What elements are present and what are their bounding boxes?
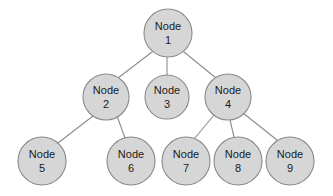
- node-label-number-3: 3: [164, 98, 170, 110]
- tree-node-6[interactable]: Node6: [107, 137, 155, 185]
- node-label-number-9: 9: [287, 162, 293, 174]
- tree-diagram-canvas: Node1Node2Node3Node4Node5Node6Node7Node8…: [0, 0, 333, 196]
- tree-edge-1-to-4: [184, 52, 216, 78]
- tree-edge-4-to-7: [194, 114, 215, 139]
- tree-node-8[interactable]: Node8: [214, 137, 262, 185]
- tree-node-5[interactable]: Node5: [18, 137, 66, 185]
- node-label-prefix-8: Node: [225, 148, 251, 160]
- node-label-number-7: 7: [183, 162, 189, 174]
- tree-node-7[interactable]: Node7: [162, 137, 210, 185]
- tree-edge-1-to-2: [118, 52, 152, 78]
- tree-edge-2-to-5: [58, 116, 93, 143]
- tree-node-3[interactable]: Node3: [145, 75, 189, 119]
- tree-node-1[interactable]: Node1: [144, 9, 192, 57]
- node-label-number-5: 5: [39, 162, 45, 174]
- node-label-prefix-4: Node: [215, 84, 241, 96]
- node-label-prefix-5: Node: [29, 148, 55, 160]
- node-label-prefix-2: Node: [93, 84, 119, 96]
- node-label-prefix-3: Node: [154, 84, 180, 96]
- node-label-prefix-9: Node: [277, 148, 303, 160]
- node-label-number-2: 2: [103, 98, 109, 110]
- tree-node-4[interactable]: Node4: [205, 74, 251, 120]
- tree-node-9[interactable]: Node9: [266, 137, 314, 185]
- tree-node-2[interactable]: Node2: [83, 74, 129, 120]
- node-label-prefix-7: Node: [173, 148, 199, 160]
- tree-edge-4-to-9: [243, 113, 277, 140]
- tree-edge-2-to-6: [117, 116, 125, 138]
- node-label-number-6: 6: [128, 162, 134, 174]
- node-label-number-4: 4: [225, 98, 231, 110]
- node-label-prefix-6: Node: [118, 148, 144, 160]
- tree-nodes-group: Node1Node2Node3Node4Node5Node6Node7Node8…: [18, 9, 314, 185]
- tree-diagram-svg: Node1Node2Node3Node4Node5Node6Node7Node8…: [0, 0, 333, 196]
- node-label-number-1: 1: [165, 34, 171, 46]
- node-label-number-8: 8: [235, 162, 241, 174]
- node-label-prefix-1: Node: [155, 20, 181, 32]
- tree-edge-4-to-8: [230, 120, 234, 137]
